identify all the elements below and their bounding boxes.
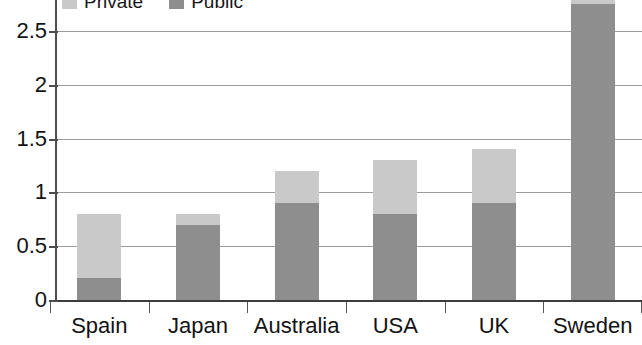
legend-label-private: Private [84,0,143,12]
y-tick-label: 2.5 [1,20,47,42]
x-axis-line [50,300,642,302]
bar-australia [275,171,319,300]
y-tick-mark [49,31,58,33]
legend-item-public: Public [169,0,243,12]
legend-label-public: Public [191,0,243,12]
legend-swatch-public-icon [169,0,184,9]
y-tick-mark [49,85,58,87]
gridline [57,31,642,32]
stacked-bar-chart: Private Public 2.521.510.50 SpainJapanAu… [0,0,642,345]
x-axis-separator [149,302,150,313]
legend-item-private: Private [62,0,143,12]
x-category-label-usa: USA [346,313,445,339]
bar-segment-private [373,160,417,214]
bar-uk [472,149,516,300]
y-tick-label: 1 [1,181,47,203]
legend-swatch-private-icon [62,0,77,9]
y-tick-mark [49,300,58,302]
y-tick-mark [49,192,58,194]
bar-segment-public [472,203,516,300]
chart-legend: Private Public [62,0,243,13]
gridline [57,139,642,140]
gridline [57,246,642,247]
bar-segment-public [275,203,319,300]
y-tick-label: 1.5 [1,128,47,150]
x-axis-separator [50,302,51,313]
bar-segment-public [77,278,121,300]
gridline [57,192,642,193]
plot-area [57,0,642,301]
gridline [57,85,642,86]
y-axis-line [55,0,57,302]
x-axis-separator [346,302,347,313]
y-tick-label: 0 [1,289,47,311]
x-category-label-australia: Australia [247,313,346,339]
bar-japan [176,214,220,300]
bar-segment-private [77,214,121,279]
bar-spain [77,214,121,300]
x-axis-separator [543,302,544,313]
bar-usa [373,160,417,300]
y-tick-label: 2 [1,74,47,96]
x-axis-categories: SpainJapanAustraliaUSAUKSweden [50,302,642,345]
bar-segment-private [176,214,220,225]
y-axis-labels: 2.521.510.50 [0,0,47,345]
bar-segment-public [571,4,615,300]
x-category-label-sweden: Sweden [543,313,642,339]
bar-segment-private [472,149,516,203]
x-category-label-spain: Spain [50,313,149,339]
x-axis-separator [247,302,248,313]
bar-segment-private [275,171,319,203]
y-tick-label: 0.5 [1,235,47,257]
bar-segment-private [571,0,615,4]
bar-sweden [571,0,615,300]
x-category-label-japan: Japan [149,313,248,339]
bar-segment-public [176,225,220,300]
bar-segment-public [373,214,417,300]
x-category-label-uk: UK [445,313,544,339]
y-tick-mark [49,246,58,248]
y-tick-mark [49,139,58,141]
x-axis-separator [445,302,446,313]
